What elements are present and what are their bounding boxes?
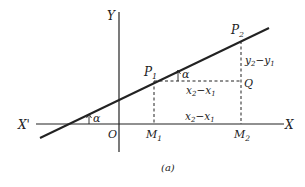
p2-label: P2 [230,23,244,39]
origin-label: O [108,128,117,141]
slope-diagram: α α Y X X' O P1 P2 Q M1 M2 x2−x1 x2−x1 y… [0,0,305,187]
dy-label: y2−y1 [244,54,275,68]
m1-label: M1 [145,128,162,143]
y-axis-label: Y [107,9,116,23]
x-axis-label: X [284,118,294,132]
x-neg-axis-label: X' [17,118,30,132]
angle-label-lower: α [93,112,101,125]
angle-label-upper: α [182,68,190,81]
figure-caption: (a) [161,162,175,173]
p1-label: P1 [143,65,157,81]
dx-lower-label: x2−x1 [185,110,215,124]
m2-label: M2 [233,128,250,143]
q-label: Q [244,77,253,90]
dx-upper-label: x2−x1 [186,84,216,98]
